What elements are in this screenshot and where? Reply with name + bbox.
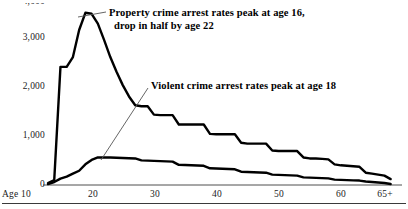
violent-crime-line (48, 157, 391, 184)
x-tick-label-40: 40 (197, 189, 237, 199)
violent-annotation-leader-line (101, 88, 148, 160)
y-tick-label-0: 0 (0, 179, 45, 189)
x-tick-label-65plus: 65+ (364, 189, 406, 199)
property-annotation-line2: drop in half by age 22 (114, 20, 214, 33)
property-annotation-line1: Property crime arrest rates peak at age … (109, 7, 305, 20)
x-tick-label-50: 50 (259, 189, 299, 199)
x-tick-label-age10: Age 10 (2, 189, 58, 199)
y-tick-label-2000: 2,000 (0, 81, 45, 91)
crime-arrest-rates-chart: 4,000 3,000 2,000 1,000 0 Age 10 20 30 4… (0, 0, 408, 209)
violent-annotation-line1: Violent crime arrest rates peak at age 1… (151, 80, 336, 93)
x-tick-label-20: 20 (73, 189, 113, 199)
x-tick-label-60: 60 (321, 189, 361, 199)
y-tick-label-1000: 1,000 (0, 130, 45, 140)
x-tick-label-30: 30 (135, 189, 175, 199)
y-tick-label-3000: 3,000 (0, 32, 45, 42)
top-edge-crop-mask (0, 0, 408, 3)
